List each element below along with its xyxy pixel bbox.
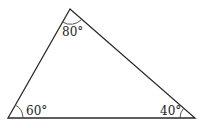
angle-arc-bottom-left	[15, 105, 23, 118]
angle-label-bottom-left: 60°	[26, 104, 47, 118]
angle-label-bottom-right: 40°	[160, 104, 181, 118]
triangle-diagram: 80° 60° 40°	[0, 0, 206, 128]
angle-arc-top	[63, 20, 82, 25]
triangle	[8, 9, 195, 118]
angle-label-top: 80°	[62, 25, 83, 39]
